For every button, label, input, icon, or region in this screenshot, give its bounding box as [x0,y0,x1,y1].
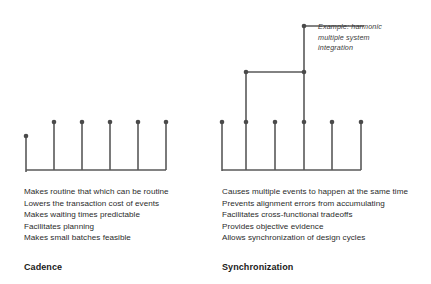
cadence-tick-dot [108,120,113,125]
list-item: Allows synchronization of design cycles [222,232,408,244]
synchronization-bullet-list: Causes multiple events to happen at the … [222,186,408,244]
list-item: Makes waiting times predictable [24,209,169,221]
list-item: Provides objective evidence [222,221,408,233]
cadence-bullet-list: Makes routine that which can be routine … [24,186,169,244]
cadence-tick-dot [136,120,141,125]
sync-tick-dot [220,120,225,125]
sync-tick-dot [330,120,335,125]
cadence-tick-dot [80,120,85,125]
sync-tick-dot [273,120,278,125]
list-item: Facilitates cross-functional tradeoffs [222,209,408,221]
cadence-tick-dot [164,120,169,125]
list-item: Causes multiple events to happen at the … [222,186,408,198]
annotation-line: multiple system [318,33,398,44]
cadence-caption: Cadence [24,262,62,272]
sync-tier3-node-dot [302,24,307,29]
sync-tick-dot [359,120,364,125]
sync-tick-dot [302,120,307,125]
harmonic-example-annotation: Example: harmonic multiple system integr… [318,22,398,54]
annotation-line: integration [318,43,398,54]
list-item: Prevents alignment errors from accumulat… [222,198,408,210]
list-item: Facilitates planning [24,221,169,233]
sync-tier2-junction-dot [302,70,307,75]
sync-tier2-node-dot [244,70,249,75]
list-item: Makes routine that which can be routine [24,186,169,198]
cadence-tick-dot [52,120,57,125]
synchronization-caption: Synchronization [222,262,293,272]
synchronization-panel: Example: harmonic multiple system integr… [215,0,431,284]
cadence-panel: Makes routine that which can be routine … [0,0,215,284]
cadence-tick-dot [24,134,29,139]
cadence-diagram [0,0,216,180]
cadence-timeline-svg [0,0,216,180]
sync-tick-dot [244,120,249,125]
list-item: Makes small batches feasible [24,232,169,244]
annotation-line: Example: harmonic [318,22,398,33]
list-item: Lowers the transaction cost of events [24,198,169,210]
